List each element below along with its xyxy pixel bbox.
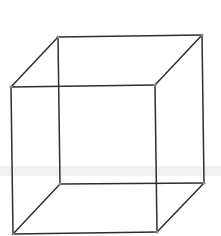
- vertex-front-top-left: [9, 85, 12, 88]
- vertex-back-bottom-left: [58, 182, 61, 185]
- vertex-front-bottom-right: [155, 230, 158, 233]
- cube-diagram: [0, 0, 221, 236]
- vertex-back-top-right: [200, 33, 203, 36]
- edge-back-bottom-right-to-back-bottom-left: [60, 183, 204, 184]
- vertex-front-bottom-left: [11, 232, 14, 235]
- vertex-back-bottom-right: [202, 181, 205, 184]
- vertex-front-top-right: [153, 83, 156, 86]
- scan-artifact: [0, 166, 221, 176]
- vertex-back-top-left: [56, 35, 59, 38]
